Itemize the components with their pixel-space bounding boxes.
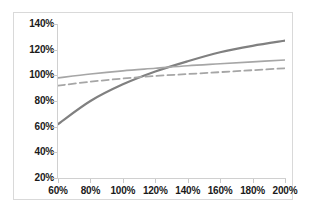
y-tick-mark <box>53 101 57 102</box>
series-lines <box>58 24 285 178</box>
x-tick-label: 160% <box>208 185 233 196</box>
x-tick-label: 80% <box>81 185 100 196</box>
y-tick-mark <box>53 50 57 51</box>
y-tick-mark <box>53 75 57 76</box>
x-tick-label: 60% <box>48 185 67 196</box>
x-tick-mark <box>253 179 254 183</box>
x-tick-label: 180% <box>240 185 265 196</box>
x-tick-mark <box>123 179 124 183</box>
x-tick-mark <box>285 179 286 183</box>
chart-container: 140%120%100%80%60%40%20% 60%80%100%120%1… <box>0 0 310 213</box>
y-tick-mark <box>53 178 57 179</box>
x-tick-mark <box>220 179 221 183</box>
x-tick-mark <box>188 179 189 183</box>
x-tick-mark <box>155 179 156 183</box>
series-line-3 <box>58 68 285 85</box>
y-tick-mark <box>53 127 57 128</box>
x-tick-label: 100% <box>110 185 135 196</box>
y-tick-mark <box>53 24 57 25</box>
plot-area <box>58 24 285 178</box>
y-tick-mark <box>53 152 57 153</box>
x-tick-label: 120% <box>143 185 168 196</box>
x-tick-label: 140% <box>175 185 200 196</box>
x-tick-mark <box>58 179 59 183</box>
x-tick-mark <box>90 179 91 183</box>
x-tick-label: 200% <box>273 185 298 196</box>
